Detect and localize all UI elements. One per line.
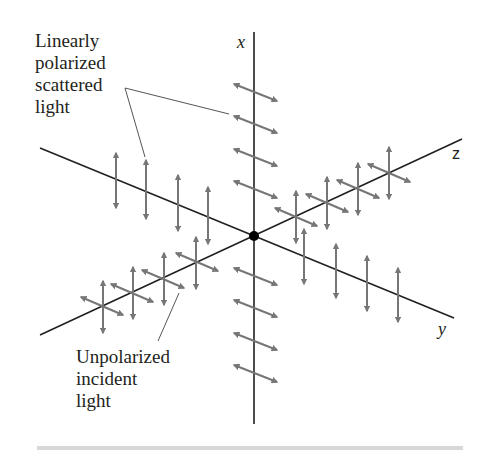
double-arrow-icon [234, 300, 277, 317]
scattered-light-label: Linearly polarized scattered light [35, 30, 106, 118]
double-arrow-icon [234, 268, 277, 285]
scattered-leader-line [125, 88, 229, 157]
double-arrow-icon [234, 116, 277, 133]
incident-leader-line [158, 293, 179, 341]
origin-dot [249, 231, 259, 241]
double-arrow-icon [234, 149, 277, 166]
footer-divider [37, 446, 463, 450]
x-axis-label: x [237, 33, 245, 51]
double-arrow-icon [234, 84, 277, 101]
y-axis-label: y [438, 320, 446, 338]
double-arrow-icon [234, 181, 277, 198]
z-axis-label: z [452, 145, 460, 163]
double-arrow-icon [234, 365, 277, 382]
double-arrow-icon [234, 333, 277, 350]
incident-light-label: Unpolarized incident light [76, 346, 170, 412]
